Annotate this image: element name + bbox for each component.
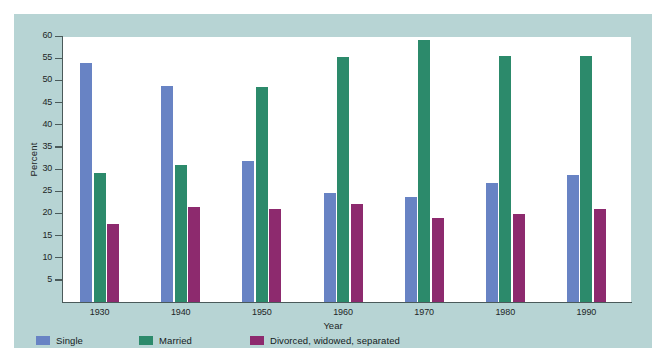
y-axis-tick-label-wrap: 10	[14, 253, 52, 262]
x-axis-tick-label-1980: 1980	[475, 307, 535, 317]
y-axis-tick	[55, 102, 63, 103]
legend-label: Divorced, widowed, separated	[270, 335, 400, 346]
bar-divorced-1930	[107, 224, 119, 302]
y-axis-title: Percent	[28, 125, 39, 195]
y-axis-tick-label: 20	[18, 208, 52, 217]
bar-divorced-1960	[351, 204, 363, 302]
bar-single-1980	[486, 183, 498, 302]
bar-divorced-1980	[513, 214, 525, 302]
y-axis-tick-label: 55	[18, 53, 52, 62]
chart-figure: 51015202530354045505560 Percent 19301940…	[14, 14, 652, 348]
bar-married-1970	[418, 40, 430, 302]
y-axis-tick-label: 15	[18, 231, 52, 240]
y-axis-tick-label-wrap: 60	[14, 31, 52, 40]
y-axis-tick-label: 45	[18, 98, 52, 107]
y-axis-tick	[55, 124, 63, 125]
x-axis-tick-label-1990: 1990	[556, 307, 616, 317]
y-axis-tick-label: 10	[18, 253, 52, 262]
y-axis-tick-label-wrap: 15	[14, 231, 52, 240]
y-axis-tick	[55, 36, 63, 37]
y-axis-tick	[55, 213, 63, 214]
bar-divorced-1950	[269, 209, 281, 302]
y-axis-tick-label: 60	[18, 31, 52, 40]
bars-layer	[63, 36, 631, 302]
legend-swatch-icon	[36, 336, 50, 345]
bar-single-1950	[242, 161, 254, 302]
bar-married-1990	[580, 56, 592, 302]
x-axis-title: Year	[14, 320, 652, 331]
legend-swatch-icon	[250, 336, 264, 345]
legend-item-married[interactable]: Married	[139, 335, 192, 346]
x-axis-tick-label-1930: 1930	[70, 307, 130, 317]
y-axis-tick-label-wrap: 55	[14, 53, 52, 62]
x-axis-tick-label-1950: 1950	[232, 307, 292, 317]
y-axis-tick	[55, 58, 63, 59]
bar-married-1930	[94, 173, 106, 302]
x-axis-tick-label-1970: 1970	[394, 307, 454, 317]
y-axis-tick-label-wrap: 20	[14, 208, 52, 217]
legend-label: Single	[56, 335, 83, 346]
legend-item-divorced[interactable]: Divorced, widowed, separated	[250, 335, 400, 346]
bar-divorced-1990	[594, 209, 606, 302]
x-axis-tick-label-1940: 1940	[151, 307, 211, 317]
bar-single-1970	[405, 197, 417, 303]
bar-single-1960	[324, 193, 336, 303]
x-axis-line	[62, 302, 632, 303]
bar-married-1960	[337, 57, 349, 302]
bar-married-1940	[175, 165, 187, 302]
bar-single-1990	[567, 175, 579, 302]
legend-item-single[interactable]: Single	[36, 335, 83, 346]
bar-divorced-1940	[188, 207, 200, 302]
y-axis-tick	[55, 235, 63, 236]
bar-married-1950	[256, 87, 268, 302]
y-axis-tick-label-wrap: 45	[14, 98, 52, 107]
chart-legend: SingleMarriedDivorced, widowed, separate…	[36, 335, 400, 346]
y-axis-tick	[55, 279, 63, 280]
x-axis-tick-label-1960: 1960	[313, 307, 373, 317]
y-axis-tick	[55, 257, 63, 258]
bar-single-1940	[161, 86, 173, 302]
legend-label: Married	[159, 335, 192, 346]
y-axis-tick-label-wrap: 50	[14, 75, 52, 84]
y-axis-tick-label-wrap: 5	[14, 275, 52, 284]
y-axis-tick	[55, 169, 63, 170]
y-axis-tick	[55, 191, 63, 192]
y-axis-tick	[55, 146, 63, 147]
y-axis-tick	[55, 80, 63, 81]
bar-married-1980	[499, 56, 511, 302]
bar-divorced-1970	[432, 218, 444, 302]
bar-single-1930	[80, 63, 92, 302]
legend-swatch-icon	[139, 336, 153, 345]
y-axis-tick-label: 50	[18, 75, 52, 84]
y-axis-tick-label: 5	[18, 275, 52, 284]
